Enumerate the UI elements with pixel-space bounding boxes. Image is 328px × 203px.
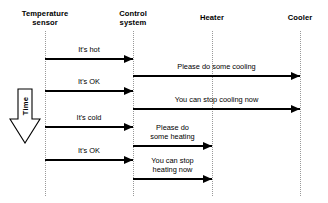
- message-line: [133, 75, 300, 77]
- message-arrowhead-icon: [124, 55, 133, 63]
- message-label-its-ok-1: It's OK: [78, 78, 100, 87]
- lifeline-name-line2: sensor: [22, 18, 69, 27]
- lifeline-name-line1: Temperature: [22, 9, 69, 18]
- lifeline-control-system: [133, 31, 134, 196]
- time-arrow: Time: [9, 88, 41, 144]
- message-line: [45, 126, 133, 128]
- message-arrowhead-icon: [124, 123, 133, 131]
- message-label-you-can-stop-cooling-now: You can stop cooling now: [175, 96, 259, 105]
- lifeline-head-heater: Heater: [200, 13, 224, 22]
- message-label-line2: heating now: [151, 166, 193, 175]
- message-label-line1: You can stop cooling now: [175, 95, 259, 104]
- time-arrow-label: Time: [21, 97, 30, 115]
- message-label-line1: Please do: [156, 123, 189, 132]
- lifeline-temperature-sensor: [45, 31, 46, 196]
- message-label-its-hot: It's hot: [78, 46, 100, 55]
- lifeline-head-control-system: Controlsystem: [119, 9, 147, 27]
- lifeline-heater: [212, 31, 213, 196]
- message-arrowhead-icon: [124, 87, 133, 95]
- message-label-please-do-some-cooling: Please do some cooling: [177, 63, 255, 72]
- message-arrowhead-icon: [291, 72, 300, 80]
- lifeline-name-line1: Cooler: [288, 13, 313, 22]
- lifeline-head-temperature-sensor: Temperaturesensor: [22, 9, 69, 27]
- message-arrowhead-icon: [203, 142, 212, 150]
- message-label-please-do-some-heating: Please dosome heating: [150, 124, 194, 141]
- message-line: [45, 58, 133, 60]
- message-label-line1: It's OK: [78, 146, 100, 155]
- message-label-line1: Please do some cooling: [177, 62, 255, 71]
- message-label-line1: It's hot: [78, 45, 100, 54]
- lifeline-name-line2: system: [119, 18, 147, 27]
- message-line: [45, 90, 133, 92]
- message-line: [133, 145, 212, 147]
- message-arrowhead-icon: [124, 156, 133, 164]
- lifeline-cooler: [300, 31, 301, 196]
- message-line: [45, 159, 133, 161]
- message-label-its-cold: It's cold: [77, 114, 102, 123]
- message-line: [133, 178, 212, 180]
- lifeline-head-cooler: Cooler: [288, 13, 313, 22]
- message-arrowhead-icon: [203, 175, 212, 183]
- lifeline-name-line1: Control: [119, 9, 147, 18]
- message-label-its-ok-2: It's OK: [78, 147, 100, 156]
- message-label-line1: It's OK: [78, 77, 100, 86]
- message-label-line1: You can stop: [151, 156, 193, 165]
- message-arrowhead-icon: [291, 105, 300, 113]
- message-line: [133, 108, 300, 110]
- message-label-line1: It's cold: [77, 113, 102, 122]
- message-label-line2: some heating: [150, 133, 194, 142]
- message-label-you-can-stop-heating-now: You can stopheating now: [151, 157, 193, 174]
- lifeline-name-line1: Heater: [200, 13, 224, 22]
- sequence-diagram: TemperaturesensorControlsystemHeaterCool…: [0, 0, 328, 203]
